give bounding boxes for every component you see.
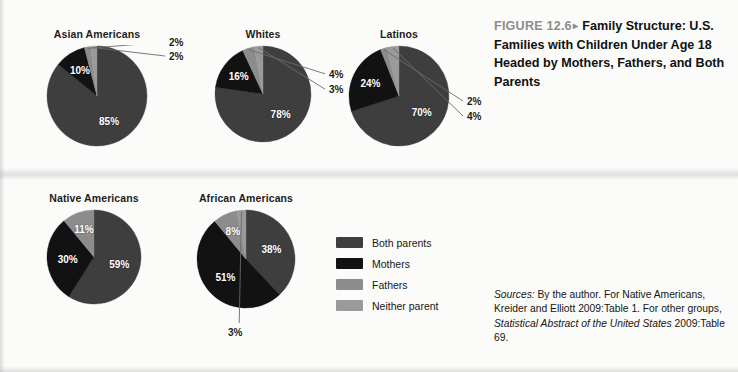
figure-page: Asian Americans85%10%2%2%Whites78%16%4%3…: [0, 0, 738, 372]
legend-swatch-icon: [336, 300, 363, 311]
legend-item: Neither parent: [336, 295, 439, 316]
pie-callout-label: 2%: [169, 51, 183, 62]
pie-chart: Asian Americans85%10%2%2%: [46, 28, 148, 150]
pie-chart: Native Americans59%30%11%: [46, 192, 142, 308]
legend-label: Neither parent: [372, 300, 439, 312]
pie-graphic: 70%24%2%4%: [348, 45, 510, 187]
pie-graphic: 59%30%11%: [46, 209, 142, 305]
legend-label: Both parents: [372, 237, 432, 249]
pie-chart-title: Native Americans: [14, 192, 174, 204]
legend-item: Mothers: [336, 253, 439, 274]
chart-legend: Both parentsMothersFathersNeither parent: [336, 232, 439, 316]
pie-slice-label: 78%: [271, 109, 291, 120]
pie-callout-label: 4%: [467, 111, 481, 122]
legend-swatch-icon: [336, 258, 363, 269]
pie-graphic: 85%10%2%2%: [46, 45, 208, 187]
pie-callout-label: 2%: [169, 37, 183, 48]
figure-caption: FIGURE 12.6▸ Family Structure: U.S. Fami…: [494, 17, 732, 91]
pie-slice-label: 38%: [261, 243, 281, 254]
pie-slice-label: 8%: [226, 226, 240, 237]
pie-callout-label: 4%: [329, 68, 343, 79]
pie-chart-title: Asian Americans: [17, 28, 177, 40]
legend-item: Fathers: [336, 274, 439, 295]
pie-slice-label: 70%: [412, 107, 432, 118]
legend-label: Fathers: [372, 279, 408, 291]
figure-number: FIGURE 12.6: [494, 19, 572, 33]
pie-graphic: 38%51%8%3%: [196, 209, 356, 349]
sources-note: Sources: By the author. For Native Ameri…: [494, 288, 734, 346]
pie-callout-label: 2%: [467, 96, 481, 107]
legend-swatch-icon: [336, 279, 363, 290]
sources-label: Sources:: [494, 289, 535, 300]
scan-edge-left: [0, 0, 5, 372]
pie-slice-label: 30%: [58, 253, 78, 264]
figure-arrow-icon: ▸: [572, 20, 579, 31]
pie-slice-label: 85%: [99, 116, 119, 127]
pie-chart: Whites78%16%4%3%: [214, 28, 312, 146]
pie-chart: Latinos70%24%2%4%: [348, 28, 450, 150]
sources-italic-title: Statistical Abstract of the United State…: [494, 318, 672, 329]
pie-slice-label: 10%: [70, 64, 90, 75]
pie-slice-label: 24%: [360, 77, 380, 88]
scan-edge-bottom: [0, 366, 738, 372]
pie-callout-label: 3%: [329, 84, 343, 95]
pie-slice-label: 51%: [215, 272, 235, 283]
legend-label: Mothers: [372, 258, 410, 270]
legend-item: Both parents: [336, 232, 439, 253]
pie-chart: African Americans38%51%8%3%: [196, 192, 296, 312]
legend-swatch-icon: [336, 237, 363, 248]
pie-chart-title: African Americans: [166, 192, 326, 204]
pie-slice-label: 16%: [229, 70, 249, 81]
pie-slice-label: 11%: [74, 224, 93, 235]
pie-callout-label: 3%: [228, 327, 242, 338]
pie-chart-title: Latinos: [319, 28, 479, 40]
pie-slice-label: 59%: [109, 259, 129, 270]
